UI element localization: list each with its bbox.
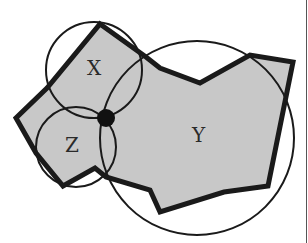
label-z: Z xyxy=(65,133,79,157)
diagram-canvas: X Y Z xyxy=(0,0,308,243)
label-x: X xyxy=(87,56,102,80)
intersection-dot xyxy=(97,109,115,127)
region-polygon xyxy=(16,24,293,212)
label-y: Y xyxy=(191,123,206,147)
diagram-svg: X Y Z xyxy=(0,0,308,243)
